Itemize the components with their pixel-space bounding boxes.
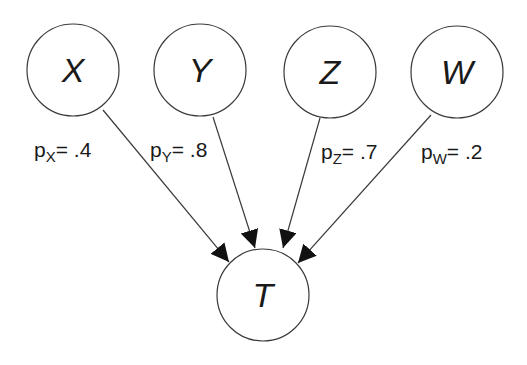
prob-label-z: pZ= .7 — [321, 140, 377, 167]
node-t-label: T — [253, 276, 276, 314]
node-x: X — [27, 24, 119, 116]
edge-y-to-t — [213, 117, 255, 248]
prob-label-w: pW= .2 — [421, 140, 482, 167]
node-z: Z — [284, 26, 376, 118]
node-w-label: W — [441, 53, 476, 91]
node-y: Y — [154, 24, 246, 116]
node-w: W — [411, 26, 503, 118]
node-x-label: X — [61, 51, 86, 89]
edge-x-to-t — [103, 110, 229, 262]
prob-label-x: pX= .4 — [34, 138, 92, 165]
node-t: T — [217, 249, 309, 341]
prob-label-y: pY= .8 — [150, 138, 207, 165]
node-y-label: Y — [189, 51, 214, 89]
edge-z-to-t — [283, 118, 320, 248]
node-z-label: Z — [319, 53, 342, 91]
edge-w-to-t — [298, 115, 431, 263]
causal-diagram: X Y Z W T pX= .4 pY= .8 pZ= .7 pW= .2 — [0, 0, 527, 365]
